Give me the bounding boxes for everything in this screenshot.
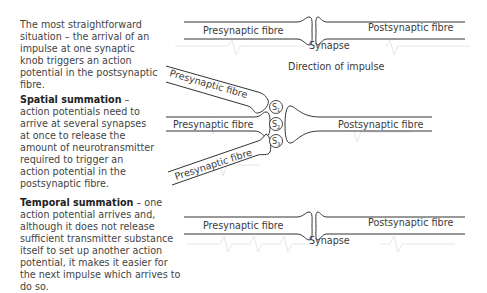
synapse-s3: S 3 [270, 135, 283, 148]
temporal-summation-diagram: Presynaptic fibre Postsynaptic fibre Syn… [184, 212, 465, 246]
synapse-s1: S 1 [270, 101, 283, 114]
postsynaptic-label: Postsynaptic fibre [368, 22, 453, 33]
presynaptic-bottom-label: Presynaptic fibre [173, 147, 253, 182]
synapse-s2: S 2 [270, 118, 283, 131]
svg-text:1: 1 [277, 107, 280, 113]
synapse-label: Synapse [309, 235, 350, 246]
svg-text:2: 2 [277, 124, 280, 130]
svg-text:3: 3 [277, 141, 280, 147]
spatial-summation-diagram: Presynaptic fibre Presynaptic fibre Pres… [166, 66, 432, 185]
postsynaptic-label: Postsynaptic fibre [338, 119, 423, 130]
synapse-label: Synapse [309, 40, 350, 51]
direction-label: Direction of impulse [288, 61, 385, 72]
presynaptic-label: Presynaptic fibre [203, 25, 284, 36]
postsynaptic-label: Postsynaptic fibre [368, 217, 453, 228]
presynaptic-label: Presynaptic fibre [203, 220, 284, 231]
presynaptic-middle-label: Presynaptic fibre [173, 119, 254, 130]
